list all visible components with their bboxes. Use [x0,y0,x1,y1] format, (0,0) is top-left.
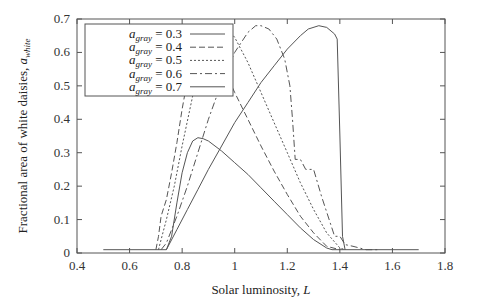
x-axis-title: Solar luminosity, L [211,282,310,297]
x-tick-label: 0.4 [69,258,86,273]
y-tick-label: 0.6 [54,44,71,59]
y-tick-label: 0 [64,245,71,260]
x-tick-label: 1.8 [437,258,453,273]
y-tick-label: 0.4 [54,111,71,126]
x-tick-label: 0.6 [121,258,138,273]
y-tick-label: 0.7 [54,11,71,26]
y-tick-label: 0.2 [54,178,70,193]
legend: agray = 0.3agray = 0.4agray = 0.5agray =… [85,24,233,96]
x-tick-label: 0.8 [174,258,190,273]
y-tick-label: 0.5 [54,78,70,93]
x-tick-label: 1 [231,258,238,273]
x-tick-label: 1.6 [384,258,401,273]
y-tick-label: 0.1 [54,212,70,227]
x-tick-label: 1.2 [279,258,295,273]
y-axis-title: Fractional area of white daisies, awhite [15,39,32,234]
chart: 0.40.60.811.21.41.61.800.10.20.30.40.50.… [0,0,481,305]
x-tick-label: 1.4 [332,258,349,273]
series-line-0 [103,138,418,250]
y-tick-label: 0.3 [54,145,70,160]
